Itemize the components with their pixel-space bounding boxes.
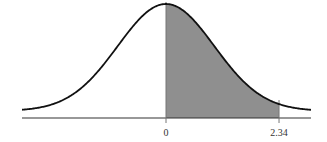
normal-curve-chart: 0 2.34 — [0, 0, 327, 142]
tick-label-end: 2.34 — [270, 127, 288, 138]
tick-label-zero: 0 — [164, 127, 169, 138]
shaded-area — [166, 4, 279, 118]
